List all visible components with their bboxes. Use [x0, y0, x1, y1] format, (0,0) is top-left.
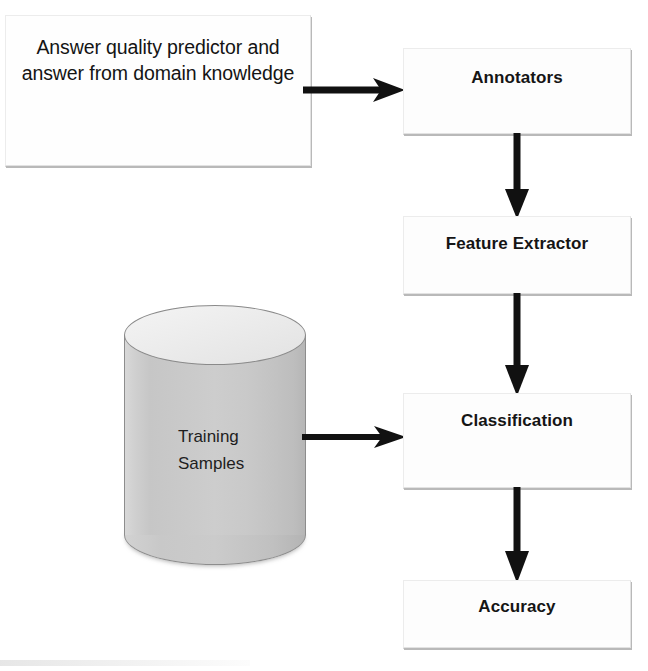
node-accuracy-box: Accuracy: [403, 580, 631, 648]
arrow-training-samples-to-classification: [302, 425, 406, 449]
node-input-box: Answer quality predictor and answer from…: [5, 15, 311, 166]
node-annotators-box: Annotators: [403, 48, 631, 134]
node-classification-label: Classification: [404, 411, 630, 431]
node-classification-box: Classification: [403, 393, 631, 488]
node-training-samples-label: Training Samples: [178, 423, 298, 477]
arrow-input-to-annotators: [303, 78, 405, 102]
node-feature-extractor-box: Feature Extractor: [403, 216, 631, 294]
arrow-annotators-to-feature-extractor: [505, 133, 529, 219]
scan-artifact: [0, 660, 250, 666]
node-input-label: Answer quality predictor and answer from…: [6, 34, 310, 86]
arrow-feature-extractor-to-classification: [505, 293, 529, 396]
diagram-canvas: Answer quality predictor and answer from…: [0, 0, 648, 671]
node-training-samples-cylinder: Training Samples: [124, 305, 306, 565]
arrow-classification-to-accuracy: [505, 487, 529, 583]
cylinder-top-ellipse: [124, 305, 306, 365]
node-feature-extractor-label: Feature Extractor: [404, 234, 630, 254]
node-accuracy-label: Accuracy: [404, 597, 630, 617]
node-annotators-label: Annotators: [404, 68, 630, 88]
